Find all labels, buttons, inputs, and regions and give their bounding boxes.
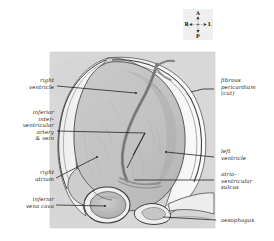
label-inferior-vena-cava: inferior vena cava — [0, 196, 54, 209]
label-right-atrium: right atrium — [0, 169, 54, 182]
label-oesophagus: oesophagus — [221, 217, 274, 224]
compass-center-dot — [197, 24, 199, 26]
oesophagus-lumen — [142, 207, 165, 219]
label-right-ventricle: right ventricle — [0, 77, 54, 90]
compass-right-label: R — [185, 22, 189, 27]
compass-posterior-label: P — [196, 34, 200, 39]
leader-dots-right — [165, 151, 167, 153]
anatomical-figure: A P R L right ventricle inferior inter- … — [0, 0, 274, 241]
inferior-vena-cava-lumen — [90, 192, 126, 219]
label-left-ventricle: left ventricle — [221, 148, 274, 161]
compass-left-label: L — [208, 22, 212, 27]
label-atrioventricular-sulcus: atrio- ventricular sulcus — [221, 171, 274, 191]
label-inferior-interventricular-artery-vein: inferior inter- ventricular artery & vei… — [0, 109, 54, 142]
label-fibrous-pericardium-cut: fibrous pericardium (cut) — [221, 77, 274, 97]
compass-anterior-label: A — [196, 11, 200, 16]
